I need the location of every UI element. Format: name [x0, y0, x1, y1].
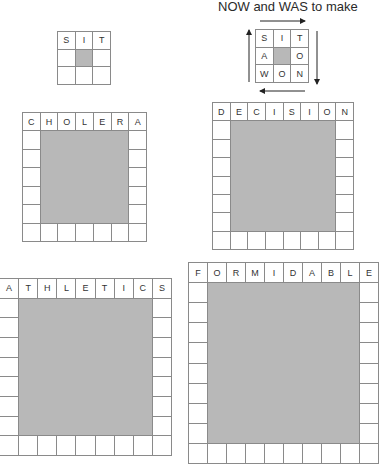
letter-cell-top[interactable]: L	[57, 279, 76, 299]
letter-cell-top[interactable]: I	[266, 103, 284, 121]
empty-cell[interactable]	[134, 436, 153, 456]
letter-cell-top[interactable]: B	[322, 263, 341, 283]
empty-cell[interactable]	[153, 338, 172, 358]
letter-cell-top[interactable]: S	[153, 279, 172, 299]
letter-cell-top[interactable]: E	[94, 113, 112, 131]
empty-cell[interactable]	[208, 444, 227, 464]
empty-cell[interactable]	[0, 299, 19, 319]
empty-cell[interactable]	[23, 205, 41, 223]
empty-cell[interactable]	[213, 121, 231, 139]
empty-cell[interactable]	[266, 232, 284, 250]
empty-cell[interactable]	[231, 232, 249, 250]
empty-cell[interactable]	[0, 358, 19, 378]
empty-cell[interactable]	[23, 131, 41, 149]
empty-cell[interactable]	[360, 303, 379, 323]
empty-cell[interactable]	[360, 404, 379, 424]
empty-cell[interactable]	[153, 358, 172, 378]
empty-cell[interactable]	[189, 303, 208, 323]
letter-cell-top[interactable]: A	[129, 113, 147, 131]
letter-cell-top[interactable]: D	[284, 263, 303, 283]
empty-cell[interactable]	[213, 232, 231, 250]
letter-cell-top[interactable]: O	[319, 103, 337, 121]
empty-cell[interactable]	[213, 158, 231, 176]
empty-cell[interactable]	[322, 444, 341, 464]
letter-cell-top[interactable]: A	[303, 263, 322, 283]
empty-cell[interactable]	[115, 436, 134, 456]
letter-cell-top[interactable]: I	[274, 30, 292, 48]
letter-cell-top[interactable]: T	[96, 279, 115, 299]
letter-cell-top[interactable]: S	[256, 30, 274, 48]
empty-cell[interactable]	[0, 338, 19, 358]
empty-cell[interactable]	[58, 224, 76, 242]
empty-cell[interactable]	[301, 232, 319, 250]
empty-cell[interactable]	[213, 195, 231, 213]
empty-cell[interactable]	[319, 232, 337, 250]
empty-cell[interactable]	[189, 384, 208, 404]
letter-cell-top[interactable]: R	[227, 263, 246, 283]
letter-cell-bottom[interactable]: W	[256, 65, 274, 83]
empty-cell[interactable]	[129, 224, 147, 242]
empty-cell[interactable]	[248, 232, 266, 250]
empty-cell[interactable]	[153, 417, 172, 437]
empty-cell[interactable]	[213, 140, 231, 158]
empty-cell[interactable]	[360, 283, 379, 303]
empty-cell[interactable]	[153, 299, 172, 319]
empty-cell[interactable]	[153, 318, 172, 338]
empty-cell[interactable]	[0, 377, 19, 397]
empty-cell[interactable]	[213, 177, 231, 195]
empty-cell[interactable]	[303, 444, 322, 464]
empty-cell[interactable]	[360, 384, 379, 404]
empty-cell[interactable]	[284, 444, 303, 464]
empty-cell[interactable]	[360, 444, 379, 464]
empty-cell[interactable]	[265, 444, 284, 464]
letter-cell-top[interactable]: L	[341, 263, 360, 283]
letter-cell-top[interactable]: T	[93, 32, 111, 50]
letter-cell-top[interactable]: H	[38, 279, 57, 299]
empty-cell[interactable]	[129, 168, 147, 186]
letter-cell-bottom[interactable]	[58, 67, 76, 85]
empty-cell[interactable]	[336, 177, 354, 195]
empty-cell[interactable]	[341, 444, 360, 464]
letter-cell-top[interactable]: T	[19, 279, 38, 299]
letter-cell-bottom[interactable]	[93, 67, 111, 85]
empty-cell[interactable]	[57, 436, 76, 456]
empty-cell[interactable]	[360, 323, 379, 343]
empty-cell[interactable]	[360, 343, 379, 363]
empty-cell[interactable]	[0, 436, 19, 456]
letter-cell-top[interactable]: C	[134, 279, 153, 299]
letter-cell-top[interactable]: O	[208, 263, 227, 283]
letter-cell-top[interactable]: S	[58, 32, 76, 50]
empty-cell[interactable]	[96, 436, 115, 456]
letter-cell-top[interactable]: F	[189, 263, 208, 283]
empty-cell[interactable]	[41, 224, 59, 242]
empty-cell[interactable]	[129, 131, 147, 149]
letter-cell-top[interactable]: I	[301, 103, 319, 121]
empty-cell[interactable]	[129, 187, 147, 205]
empty-cell[interactable]	[336, 232, 354, 250]
empty-cell[interactable]	[76, 436, 95, 456]
letter-cell-top[interactable]: R	[112, 113, 130, 131]
empty-cell[interactable]	[189, 444, 208, 464]
empty-cell[interactable]	[129, 205, 147, 223]
empty-cell[interactable]	[23, 224, 41, 242]
empty-cell[interactable]	[129, 150, 147, 168]
empty-cell[interactable]	[189, 364, 208, 384]
letter-cell-top[interactable]: C	[248, 103, 266, 121]
letter-cell-top[interactable]: S	[284, 103, 302, 121]
letter-cell-left[interactable]: A	[256, 48, 274, 66]
empty-cell[interactable]	[213, 213, 231, 231]
empty-cell[interactable]	[189, 404, 208, 424]
empty-cell[interactable]	[284, 232, 302, 250]
letter-cell-top[interactable]: O	[58, 113, 76, 131]
empty-cell[interactable]	[189, 424, 208, 444]
letter-cell-top[interactable]: A	[0, 279, 19, 299]
empty-cell[interactable]	[336, 195, 354, 213]
empty-cell[interactable]	[0, 417, 19, 437]
empty-cell[interactable]	[336, 213, 354, 231]
letter-cell-bottom[interactable]: O	[274, 65, 292, 83]
empty-cell[interactable]	[227, 444, 246, 464]
empty-cell[interactable]	[76, 224, 94, 242]
empty-cell[interactable]	[336, 140, 354, 158]
letter-cell-top[interactable]: I	[265, 263, 284, 283]
letter-cell-top[interactable]: D	[213, 103, 231, 121]
